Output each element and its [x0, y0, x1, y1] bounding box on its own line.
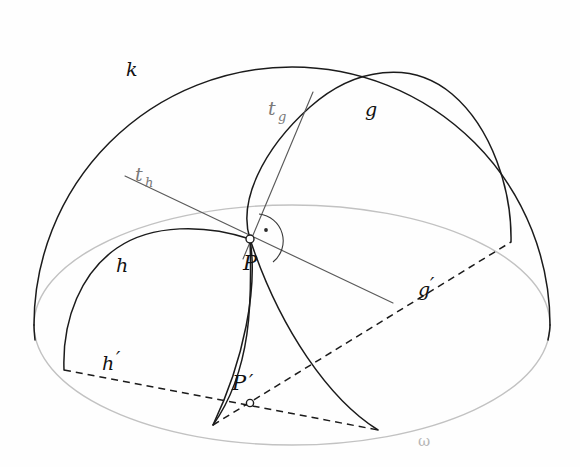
label-point-P: P: [242, 251, 258, 275]
label-projection-h-prime: h ′: [102, 347, 121, 374]
equator-ellipse-omega: [34, 205, 550, 445]
label-projection-g-prime-base: g: [418, 278, 430, 300]
great-circle-arc-g: [247, 72, 511, 430]
label-arc-h: h: [116, 254, 128, 276]
label-projection-h-prime-base: h: [102, 352, 114, 374]
label-equator-omega: ω: [418, 432, 430, 450]
projection-chord-h-prime: [64, 370, 378, 430]
label-point-P-prime-base: P: [231, 371, 247, 395]
sphere-outline-k: [34, 67, 550, 325]
label-projection-g-prime-mark: ′: [430, 273, 435, 295]
label-tangent-t-h: t h: [135, 163, 153, 190]
label-point-P-prime: P ′: [231, 370, 254, 395]
label-tangent-t-h-base: t: [135, 163, 143, 185]
point-P-prime-node[interactable]: [246, 399, 253, 406]
label-tangent-t-g-base: t: [268, 97, 276, 119]
label-projection-h-prime-mark: ′: [116, 347, 121, 369]
sphere-outline-k-left-tail: [34, 325, 35, 340]
label-tangent-t-h-subscript: h: [145, 175, 153, 190]
label-tangent-t-g-subscript: g: [278, 109, 286, 124]
right-angle-arc-marker: [259, 214, 283, 262]
projection-chord-g-prime: [213, 242, 511, 425]
sphere-outline-k-right-tail: [548, 325, 550, 340]
figure-canvas: k g h t g t h P P ′ g ′ h ′: [0, 0, 580, 467]
right-angle-dot-icon: [264, 228, 268, 232]
label-tangent-t-g: t g: [268, 97, 286, 124]
point-P-node[interactable]: [246, 235, 254, 243]
label-point-P-prime-mark: ′: [249, 370, 254, 392]
spherical-geometry-diagram: k g h t g t h P P ′ g ′ h ′: [0, 0, 580, 467]
tangent-line-t-h: [125, 176, 393, 303]
label-arc-g: g: [365, 98, 377, 120]
label-projection-g-prime: g ′: [418, 273, 435, 300]
great-circle-arc-h: [64, 229, 252, 425]
label-sphere-outline-k: k: [126, 58, 138, 80]
